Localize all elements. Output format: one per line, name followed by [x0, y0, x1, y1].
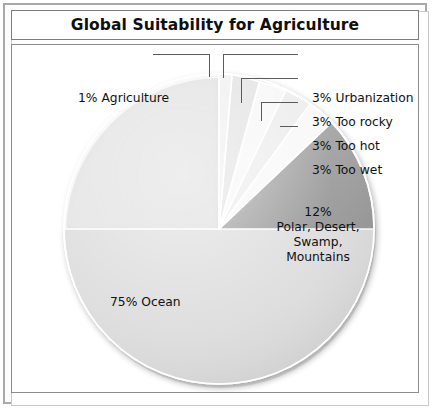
label-polar-line-3: Swamp, [262, 235, 374, 250]
label-polar-line-4: Mountains [262, 250, 374, 265]
label-agriculture: 1% Agriculture [78, 91, 169, 106]
label-polar-desert-swamp-mountains: 12% Polar, Desert, Swamp, Mountains [262, 205, 374, 265]
label-urbanization: 3% Urbanization [312, 91, 414, 106]
label-too-hot: 3% Too hot [312, 139, 380, 154]
chart-plot-area: 1% Agriculture 3% Urbanization 3% Too ro… [11, 44, 419, 393]
label-too-rocky: 3% Too rocky [312, 115, 393, 130]
chart-title-box: Global Suitability for Agriculture [11, 10, 419, 40]
label-too-wet: 3% Too wet [312, 163, 382, 178]
page-title: Global Suitability for Agriculture [71, 16, 359, 34]
label-polar-line-1: 12% [262, 205, 374, 220]
label-ocean: 75% Ocean [110, 295, 181, 310]
leader-line-agriculture [153, 54, 209, 77]
label-polar-line-2: Polar, Desert, [262, 220, 374, 235]
